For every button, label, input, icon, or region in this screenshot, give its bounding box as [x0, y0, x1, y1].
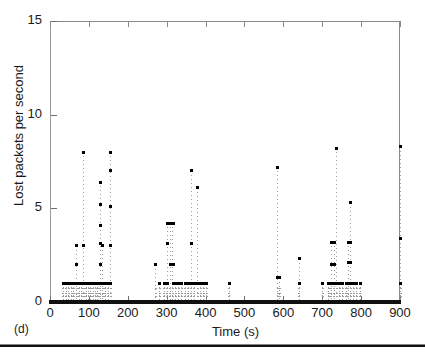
data-point-faint — [181, 288, 183, 289]
x-axis-title: Time (s) — [0, 324, 425, 339]
data-point — [99, 203, 102, 206]
data-point-faint — [228, 296, 230, 297]
data-stem — [277, 167, 278, 302]
data-point — [298, 257, 301, 260]
data-point-faint — [184, 293, 186, 294]
x-tick-top-800 — [361, 21, 362, 27]
data-point-faint — [400, 293, 402, 294]
data-point — [109, 151, 112, 154]
data-point-faint — [298, 288, 300, 289]
data-point — [172, 263, 175, 266]
y-tick-5 — [51, 208, 57, 209]
data-point-faint — [203, 296, 205, 297]
data-point-faint — [73, 293, 75, 294]
data-point — [335, 147, 338, 150]
data-point-faint — [104, 296, 106, 297]
x-tick-top-200 — [128, 21, 129, 27]
data-point-faint — [175, 288, 177, 289]
data-point-faint — [206, 293, 208, 294]
data-point-faint — [169, 288, 171, 289]
data-point-faint — [68, 296, 70, 297]
data-point-faint — [181, 296, 183, 297]
data-point-faint — [166, 296, 168, 297]
data-stem — [197, 188, 198, 302]
axis-frame-left — [50, 21, 51, 302]
data-point-faint — [175, 293, 177, 294]
data-point-faint — [336, 296, 338, 297]
axis-frame-top — [50, 21, 400, 22]
data-point-faint — [62, 288, 64, 289]
data-point — [228, 282, 231, 285]
data-point-faint — [279, 296, 281, 297]
data-point — [172, 222, 175, 225]
data-point-faint — [400, 296, 402, 297]
data-point-faint — [197, 293, 199, 294]
data-point-faint — [107, 288, 109, 289]
data-point-faint — [353, 293, 355, 294]
data-point — [109, 282, 112, 285]
data-point-faint — [76, 296, 78, 297]
data-point-faint — [193, 296, 195, 297]
data-point-faint — [333, 288, 335, 289]
data-point-faint — [228, 293, 230, 294]
data-point-faint — [73, 296, 75, 297]
data-point — [205, 282, 208, 285]
data-point-faint — [76, 288, 78, 289]
data-point-faint — [350, 288, 352, 289]
x-axis-title-text: Time (s) — [166, 324, 259, 339]
data-point-faint — [200, 296, 202, 297]
y-axis-title: Lost packets per second — [11, 36, 26, 236]
data-point-faint — [166, 293, 168, 294]
data-point-faint — [110, 288, 112, 289]
data-point — [99, 224, 102, 227]
data-point — [99, 263, 102, 266]
data-point-faint — [336, 288, 338, 289]
x-tick-top-400 — [206, 21, 207, 27]
data-point — [349, 241, 352, 244]
data-stem — [110, 152, 111, 302]
y-tick-label-15: 15 — [12, 12, 42, 27]
data-point — [109, 205, 112, 208]
data-point-faint — [62, 296, 64, 297]
data-point-faint — [187, 288, 189, 289]
y-tick-10 — [51, 115, 57, 116]
data-point — [196, 186, 199, 189]
data-point-faint — [181, 293, 183, 294]
data-point-faint — [330, 288, 332, 289]
data-point — [166, 242, 169, 245]
data-point-faint — [356, 288, 358, 289]
data-point — [190, 169, 193, 172]
data-point — [82, 151, 85, 154]
data-point — [75, 263, 78, 266]
x-axis-line — [49, 300, 401, 304]
data-point — [109, 169, 112, 172]
x-tick-top-900 — [400, 21, 401, 27]
data-stem — [279, 278, 280, 302]
data-point-faint — [359, 288, 361, 289]
data-point-faint — [197, 288, 199, 289]
data-point-faint — [178, 288, 180, 289]
data-point-faint — [193, 288, 195, 289]
data-point-faint — [159, 293, 161, 294]
data-point — [278, 276, 281, 279]
data-point — [154, 263, 157, 266]
data-point-faint — [159, 288, 161, 289]
data-point-faint — [68, 288, 70, 289]
y-tick-label-0: 0 — [12, 293, 42, 308]
data-point-faint — [107, 293, 109, 294]
data-point-faint — [330, 293, 332, 294]
data-point-faint — [203, 288, 205, 289]
data-point-faint — [172, 296, 174, 297]
x-tick-top-500 — [244, 21, 245, 27]
x-tick-top-600 — [283, 21, 284, 27]
data-point — [321, 282, 324, 285]
data-point-faint — [339, 293, 341, 294]
data-point-faint — [172, 293, 174, 294]
data-point-faint — [184, 296, 186, 297]
data-point — [399, 237, 402, 240]
data-point-faint — [298, 296, 300, 297]
data-point-faint — [350, 293, 352, 294]
data-point — [349, 261, 352, 264]
data-point-faint — [65, 288, 67, 289]
data-point — [399, 282, 402, 285]
